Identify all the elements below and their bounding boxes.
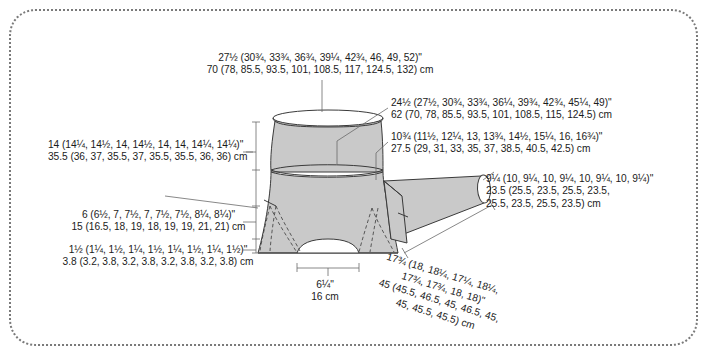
label-yoke-depth: 10¾ (11½, 12¼, 13, 13¾, 14½, 15¼, 16, 16… <box>391 131 671 156</box>
label-cuff-circumference: 6¼" 16 cm <box>288 279 362 304</box>
label-hem-circumference-inches: 14 (14¼, 14½, 14, 14½, 14, 14, 14¼, 14¼)… <box>48 139 260 151</box>
label-hem-circumference-cm: 35.5 (36, 37, 35.5, 37, 35.5, 35.5, 36, … <box>48 151 260 163</box>
label-hip-depth-cm: 15 (16.5, 18, 19, 18, 19, 19, 21, 21) cm <box>56 221 261 233</box>
sleeve <box>384 176 484 243</box>
label-body-length: 24½ (27½, 30¾, 33¾, 36¼, 39¾, 42¾, 45¼, … <box>391 97 691 122</box>
label-chest-cm: 70 (78, 85.5, 93.5, 101, 108.5, 117, 124… <box>180 64 460 76</box>
schematic-page: .gfill { fill: #c9c9c9; stroke: #3a3a3a;… <box>0 0 709 357</box>
label-hem-circumference: 14 (14¼, 14½, 14, 14½, 14, 14, 14¼, 14¼)… <box>48 139 260 164</box>
label-cuff-inches: 6¼" <box>288 279 362 291</box>
label-edging-cm: 3.8 (3.2, 3.8, 3.2, 3.8, 3.2, 3.8, 3.2, … <box>54 256 262 268</box>
label-body-length-inches: 24½ (27½, 30¾, 33¾, 36¼, 39¾, 42¾, 45¼, … <box>391 97 691 109</box>
label-body-length-cm: 62 (70, 78, 85.5, 93.5, 101, 108.5, 115,… <box>391 109 691 121</box>
label-chest-circumference: 27½ (30¾, 33¾, 36¾, 39¼, 42¾, 46, 49, 52… <box>180 52 460 77</box>
label-hip-depth: 6 (6½, 7, 7½, 7, 7½, 7½, 8¼, 8¼)" 15 (16… <box>56 209 261 234</box>
label-yoke-depth-inches: 10¾ (11½, 12¼, 13, 13¾, 14½, 15¼, 16, 16… <box>391 131 671 143</box>
label-upper-arm-circumference: 9¼ (10, 9¼, 10, 9¼, 10, 9¼, 10, 9¼)" 23.… <box>486 173 706 210</box>
label-chest-inches: 27½ (30¾, 33¾, 36¾, 39¼, 42¾, 46, 49, 52… <box>180 52 460 64</box>
label-edging-inches: 1½ (1¼, 1½, 1¼, 1½, 1¼, 1½, 1¼, 1½)" <box>54 244 262 256</box>
label-cuff-cm: 16 cm <box>288 291 362 303</box>
label-edging-depth: 1½ (1¼, 1½, 1¼, 1½, 1¼, 1½, 1¼, 1½)" 3.8… <box>54 244 262 269</box>
label-upper-arm-cm-line1: 23.5 (25.5, 23.5, 25.5, 23.5, <box>486 185 706 197</box>
label-upper-arm-inches: 9¼ (10, 9¼, 10, 9¼, 10, 9¼, 10, 9¼)" <box>486 173 706 185</box>
label-yoke-depth-cm: 27.5 (29, 31, 33, 35, 37, 38.5, 40.5, 42… <box>391 143 671 155</box>
leader-hip-depth <box>165 196 258 208</box>
dimension-bracket-cuff <box>297 263 359 276</box>
label-upper-arm-cm-line2: 25.5, 23.5, 25.5, 23.5) cm <box>486 198 706 210</box>
label-hip-depth-inches: 6 (6½, 7, 7½, 7, 7½, 7½, 8¼, 8¼)" <box>56 209 261 221</box>
